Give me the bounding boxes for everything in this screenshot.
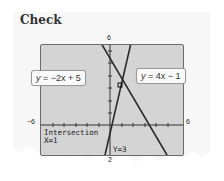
- tick-top: 6: [107, 34, 111, 41]
- callout-equation-1: y = −2x + 5: [31, 70, 86, 86]
- tick-right: 6: [186, 118, 190, 125]
- equation-2-label: = 4x − 1: [146, 71, 181, 81]
- check-title: Check: [20, 13, 62, 27]
- intersection-y: Y=3: [113, 146, 127, 154]
- line-y-neg2x-plus5: [101, 45, 167, 155]
- intersection-x: X=1: [44, 137, 58, 145]
- tick-bottom: 2: [108, 156, 112, 163]
- equation-1-label: = −2x + 5: [41, 73, 81, 83]
- graph-plot: [41, 45, 183, 155]
- calculator-screen: Intersection X=1 Y=3: [40, 44, 184, 156]
- line-y-4x-minus1: [105, 45, 131, 155]
- tick-left: −6: [27, 118, 35, 125]
- callout-equation-2: y = 4x − 1: [136, 68, 186, 84]
